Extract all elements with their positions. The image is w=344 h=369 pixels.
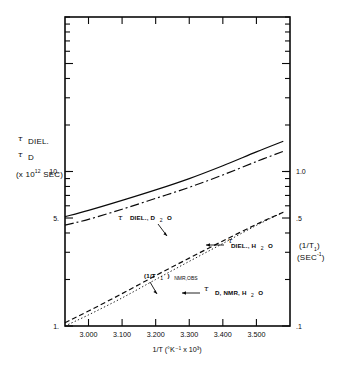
x-tick-label: 3.500 — [247, 330, 265, 339]
y-right-tick-label: .5 — [296, 215, 302, 222]
x-axis-title-group: 1/T (°K⁻¹ x 10³) — [152, 345, 201, 354]
x-tick-label: 3.400 — [214, 330, 232, 339]
x-tick-label: 3.000 — [80, 330, 98, 339]
chart-svg: 10.5.1. 1.0.5.1 3.0003.1003.2003.3003.40… — [0, 0, 344, 369]
x-tick-label: 3.200 — [147, 330, 165, 339]
y-axis-left-title-line2: D — [28, 153, 34, 162]
x-tick-label: 3.100 — [113, 330, 131, 339]
x-tick-label: 3.300 — [180, 330, 198, 339]
tau-symbol-2: τ — [18, 150, 23, 159]
y-right-tick-label: 1.0 — [296, 168, 306, 175]
x-axis-title: 1/T (°K⁻¹ x 10³) — [152, 345, 201, 354]
figure-container: 10.5.1. 1.0.5.1 3.0003.1003.2003.3003.40… — [0, 0, 344, 369]
tau-symbol-1: τ — [18, 134, 23, 143]
y-axis-left-title-line1: DIEL. — [28, 137, 49, 146]
y-left-tick-label: 1. — [53, 323, 59, 330]
y-right-tick-label: .1 — [296, 323, 302, 330]
y-left-tick-label: 5. — [53, 215, 59, 222]
